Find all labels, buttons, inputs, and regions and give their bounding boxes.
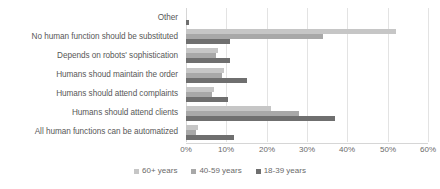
legend-swatch-icon [134, 169, 139, 174]
bar-chart: OtherNo human function should be substit… [0, 0, 440, 189]
gridline-60pct [428, 8, 429, 142]
category-label: Other [0, 13, 178, 23]
bar-group [186, 48, 428, 63]
axis-line [186, 143, 428, 144]
bar-group [186, 29, 428, 44]
value-axis: 0%10%20%30%40%50%60% [186, 143, 428, 157]
bar-group [186, 106, 428, 121]
x-tick-label: 30% [292, 145, 322, 155]
bar [186, 135, 234, 140]
bar [186, 58, 230, 63]
category-label: Humans shoud maintain the order [0, 70, 178, 80]
legend-label: 40-59 years [199, 166, 241, 176]
x-tick-label: 60% [413, 145, 440, 155]
x-tick-label: 10% [211, 145, 241, 155]
chart-legend: 60+ years40-59 years18-39 years [0, 166, 440, 176]
x-tick-label: 20% [252, 145, 282, 155]
x-tick-label: 40% [332, 145, 362, 155]
x-tick-label: 50% [373, 145, 403, 155]
category-label: Depends on robots' sophistication [0, 51, 178, 61]
bar [186, 78, 247, 83]
legend-label: 18-39 years [264, 166, 306, 176]
category-label: Humans should attend complaints [0, 89, 178, 99]
bar-group [186, 87, 428, 102]
plot-area [186, 8, 428, 142]
bar-group [186, 125, 428, 140]
x-tick-label: 0% [171, 145, 201, 155]
bar-group [186, 10, 428, 25]
category-axis: OtherNo human function should be substit… [0, 8, 182, 142]
category-label: All human functions can be automatized [0, 127, 178, 137]
bar [186, 116, 335, 121]
bar [186, 97, 228, 102]
category-label: Humans should attend clients [0, 108, 178, 118]
legend-item[interactable]: 60+ years [134, 166, 177, 176]
legend-label: 60+ years [142, 166, 177, 176]
bar [186, 39, 230, 44]
legend-item[interactable]: 40-59 years [191, 166, 241, 176]
legend-swatch-icon [256, 169, 261, 174]
bar [186, 20, 189, 25]
legend-item[interactable]: 18-39 years [256, 166, 306, 176]
bar-group [186, 68, 428, 83]
category-label: No human function should be substituted [0, 32, 178, 42]
legend-swatch-icon [191, 169, 196, 174]
